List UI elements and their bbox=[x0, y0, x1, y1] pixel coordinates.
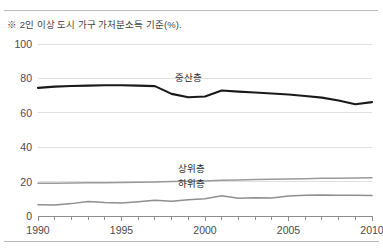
series-label-1: 상위층 bbox=[178, 161, 205, 175]
line-chart-plot bbox=[0, 0, 383, 251]
y-axis-tick-label: 0 bbox=[0, 210, 32, 222]
series-line-0 bbox=[38, 85, 372, 104]
series-line-2 bbox=[38, 195, 372, 205]
y-axis-tick-label: 20 bbox=[0, 176, 32, 188]
y-axis-tick-label: 40 bbox=[0, 141, 32, 153]
x-axis-tick-label: 2005 bbox=[277, 224, 300, 236]
x-axis-tick-label: 2010 bbox=[360, 224, 383, 236]
chart-figure: ※ 2인 이상 도시 가구 가처분소득 기준(%). 0204060801001… bbox=[0, 0, 383, 251]
series-label-2: 하위층 bbox=[178, 176, 205, 190]
x-axis-tick-label: 1995 bbox=[110, 224, 133, 236]
bottom-divider-rule bbox=[4, 241, 379, 242]
y-axis-tick-label: 100 bbox=[0, 38, 32, 50]
series-label-0: 중산층 bbox=[175, 70, 202, 84]
x-axis-tick-label: 2000 bbox=[193, 224, 216, 236]
y-axis-tick-label: 80 bbox=[0, 72, 32, 84]
y-axis-tick-label: 60 bbox=[0, 107, 32, 119]
x-axis-tick-label: 1990 bbox=[26, 224, 49, 236]
